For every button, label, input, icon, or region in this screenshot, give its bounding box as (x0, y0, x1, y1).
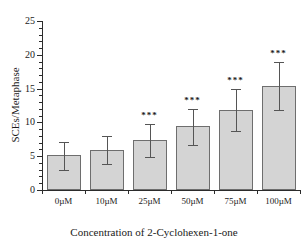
error-bar-cap-lower (188, 145, 198, 146)
error-bar (279, 62, 280, 110)
x-axis-tick-label: 10µM (95, 196, 117, 207)
x-axis-tick-label: 50µM (181, 196, 203, 207)
y-axis-minor-tick (39, 116, 42, 117)
y-axis-tick-label: 15 (25, 84, 35, 94)
plot-area: 0510152025 ************ 0µM10µM25µM50µM7… (42, 21, 300, 190)
y-axis-line (42, 21, 43, 190)
error-bar (64, 142, 65, 170)
error-bar-cap-upper (231, 89, 241, 90)
bar-chart-figure: SCEs/Metaphase 0510152025 ************ 0… (0, 0, 308, 246)
error-bar-cap-lower (145, 157, 155, 158)
x-axis-title: Concentration of 2-Cyclohexen-1-one (0, 226, 308, 239)
y-axis-minor-tick (39, 136, 42, 137)
y-axis-tick-label: 20 (25, 50, 35, 60)
y-axis-minor-tick (39, 176, 42, 177)
y-axis-minor-tick (39, 95, 42, 96)
y-axis-tick-label: 10 (25, 117, 35, 127)
significance-marker: *** (141, 111, 158, 120)
y-axis-minor-tick (39, 82, 42, 83)
error-bar-cap-lower (231, 131, 241, 132)
error-bar-cap-lower (59, 170, 69, 171)
significance-marker: *** (184, 96, 201, 105)
y-axis-minor-tick (39, 143, 42, 144)
error-bar-cap-upper (188, 109, 198, 110)
y-axis-major-tick (37, 122, 42, 123)
y-axis-minor-tick (39, 149, 42, 150)
y-axis-major-tick (37, 55, 42, 56)
y-axis-minor-tick (39, 163, 42, 164)
x-axis-tick-label: 100µM (265, 196, 292, 207)
y-axis-minor-tick (39, 68, 42, 69)
y-axis-title: SCEs/Metaphase (8, 20, 22, 190)
x-axis-tick (300, 190, 301, 194)
y-axis-minor-tick (39, 102, 42, 103)
y-axis-minor-tick (39, 28, 42, 29)
significance-marker: *** (270, 49, 287, 58)
y-axis-major-tick (37, 21, 42, 22)
y-axis-minor-tick (39, 48, 42, 49)
error-bar-cap-upper (145, 124, 155, 125)
error-bar (150, 124, 151, 156)
y-axis-minor-tick (39, 41, 42, 42)
y-axis-minor-tick (39, 109, 42, 110)
x-axis-tick (257, 190, 258, 194)
error-bar-cap-upper (102, 136, 112, 137)
error-bar-cap-lower (102, 164, 112, 165)
y-axis-minor-tick (39, 75, 42, 76)
error-bar (236, 89, 237, 130)
x-axis-tick (171, 190, 172, 194)
x-axis-tick (128, 190, 129, 194)
y-axis-major-tick (37, 156, 42, 157)
x-axis-tick (214, 190, 215, 194)
y-axis-tick-label: 25 (25, 16, 35, 26)
error-bar (107, 136, 108, 164)
y-axis-major-tick (37, 89, 42, 90)
error-bar (193, 109, 194, 145)
y-axis-tick-label: 0 (30, 185, 35, 195)
y-axis-minor-tick (39, 129, 42, 130)
y-axis-minor-tick (39, 170, 42, 171)
error-bar-cap-lower (274, 110, 284, 111)
x-axis-tick-label: 0µM (55, 196, 73, 207)
x-axis-tick-label: 75µM (224, 196, 246, 207)
y-axis-minor-tick (39, 35, 42, 36)
error-bar-cap-upper (59, 142, 69, 143)
x-axis-tick (42, 190, 43, 194)
x-axis-tick (85, 190, 86, 194)
y-axis-minor-tick (39, 183, 42, 184)
x-axis-tick-label: 25µM (138, 196, 160, 207)
error-bar-cap-upper (274, 62, 284, 63)
y-axis-tick-label: 5 (30, 151, 35, 161)
significance-marker: *** (227, 76, 244, 85)
y-axis-minor-tick (39, 62, 42, 63)
